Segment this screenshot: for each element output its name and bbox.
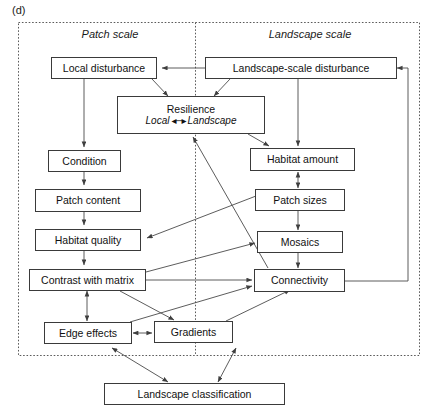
node-habitat-amount[interactable]: Habitat amount: [250, 148, 355, 171]
node-landscape-scale-disturbance-label: Landscape-scale disturbance: [233, 62, 370, 74]
node-condition-label: Condition: [62, 155, 106, 167]
node-condition[interactable]: Condition: [48, 150, 121, 172]
edge-edgeeffects-landscapeclass: [112, 348, 168, 382]
node-local-disturbance[interactable]: Local disturbance: [51, 57, 157, 79]
edge-edgeeffects-to-connectivity: [130, 286, 252, 322]
node-landscape-classification[interactable]: Landscape classification: [104, 383, 285, 405]
node-patch-sizes[interactable]: Patch sizes: [255, 189, 345, 211]
resilience-landscape-label: Landscape: [188, 115, 237, 127]
edge-lsd-to-resilience: [214, 79, 230, 96]
edge-patchsizes-to-habitatquality: [147, 196, 256, 238]
node-resilience-label: Resilience: [167, 103, 215, 115]
edge-gradients-landscapeclass: [218, 348, 236, 382]
node-landscape-scale-disturbance[interactable]: Landscape-scale disturbance: [205, 57, 397, 79]
node-gradients-label: Gradients: [171, 326, 217, 338]
node-gradients[interactable]: Gradients: [154, 321, 233, 343]
node-contrast-with-matrix-label: Contrast with matrix: [41, 274, 134, 286]
resilience-local-label: Local: [146, 115, 170, 127]
edge-gradients-to-connectivity: [226, 290, 290, 321]
node-edge-effects-label: Edge effects: [59, 327, 117, 339]
node-resilience[interactable]: Resilience Local ◂─▸ Landscape: [117, 96, 265, 134]
node-landscape-classification-label: Landscape classification: [138, 388, 252, 400]
edge-resilience-to-habitatamount: [248, 134, 269, 146]
node-patch-content[interactable]: Patch content: [35, 189, 141, 212]
node-connectivity-label: Connectivity: [271, 274, 328, 286]
landscape-scale-header: Landscape scale: [245, 28, 375, 40]
edge-contrast-to-gradients: [120, 291, 174, 320]
node-connectivity[interactable]: Connectivity: [254, 269, 345, 292]
node-mosaics-label: Mosaics: [281, 236, 320, 248]
node-resilience-sublabel: Local ◂─▸ Landscape: [146, 115, 237, 127]
node-patch-sizes-label: Patch sizes: [273, 194, 327, 206]
edge-ld-to-resilience: [152, 79, 168, 96]
node-edge-effects[interactable]: Edge effects: [44, 322, 132, 344]
node-habitat-quality[interactable]: Habitat quality: [35, 229, 141, 251]
node-contrast-with-matrix[interactable]: Contrast with matrix: [29, 269, 146, 291]
figure-panel-d: (d) Patch scale Landscape scale Local di…: [0, 0, 434, 416]
node-habitat-amount-label: Habitat amount: [267, 153, 338, 165]
edge-contrast-to-mosaics: [146, 243, 255, 272]
patch-scale-header: Patch scale: [55, 28, 165, 40]
panel-label: (d): [12, 4, 25, 16]
node-patch-content-label: Patch content: [56, 194, 120, 206]
node-habitat-quality-label: Habitat quality: [55, 234, 122, 246]
node-mosaics[interactable]: Mosaics: [257, 231, 343, 253]
bidirectional-arrow-icon: ◂─▸: [171, 115, 185, 127]
edge-connectivity-feedback-to-lsd: [345, 68, 408, 281]
node-local-disturbance-label: Local disturbance: [63, 62, 145, 74]
